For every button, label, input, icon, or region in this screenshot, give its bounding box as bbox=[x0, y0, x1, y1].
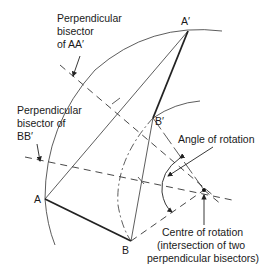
leader-bisector-bb bbox=[37, 144, 40, 161]
leader-angle bbox=[168, 147, 213, 176]
label-bisector-bb-1: Perpendicular bbox=[17, 104, 82, 116]
label-aprime: A′ bbox=[181, 15, 190, 27]
label-centre-1: Centre of rotation bbox=[162, 226, 243, 238]
segment-aprime-bprime bbox=[153, 31, 188, 118]
label-a: A bbox=[34, 193, 41, 205]
centre-of-rotation-point bbox=[202, 188, 206, 192]
label-bisector-bb-3: BB′ bbox=[17, 130, 33, 142]
label-bisector-aa-2: bisector bbox=[57, 25, 94, 37]
tick-aa bbox=[112, 98, 120, 104]
label-b: B bbox=[122, 244, 129, 256]
radius-to-bprime bbox=[153, 118, 204, 190]
label-bisector-aa-1: Perpendicular bbox=[57, 12, 122, 24]
label-bisector-aa-3: of AA′ bbox=[57, 38, 84, 50]
label-bprime: B′ bbox=[155, 115, 164, 127]
bisector-bb-line bbox=[25, 157, 232, 200]
label-centre-3: perpendicular bisectors) bbox=[147, 252, 259, 264]
bisector-aa-line bbox=[60, 65, 215, 197]
leader-bisector-aa bbox=[73, 56, 80, 76]
label-angle: Angle of rotation bbox=[178, 133, 255, 145]
rotation-diagram: A A′ B B′ Perpendicular bisector of AA′ … bbox=[0, 0, 277, 275]
label-bisector-bb-2: bisector of bbox=[17, 117, 66, 129]
label-centre-2: (intersection of two bbox=[157, 239, 245, 251]
angle-arc bbox=[162, 158, 180, 212]
